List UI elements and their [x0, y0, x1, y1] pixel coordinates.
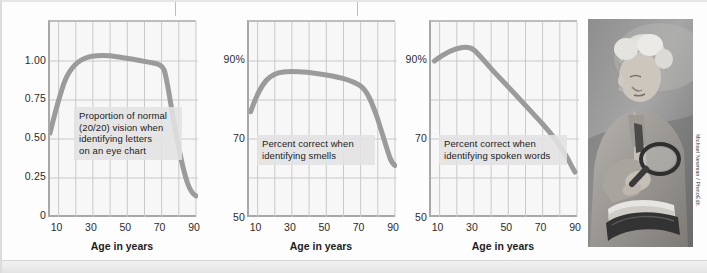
x-tick-label: 30: [85, 221, 97, 233]
chart-annotation-smell: Percent correct when identifying smells: [257, 135, 375, 165]
x-tick-label: 10: [250, 221, 262, 233]
grid-vertical: [258, 22, 395, 217]
chart-svg-smell: [249, 22, 397, 219]
x-tick-label: 50: [318, 221, 330, 233]
figure-page: 1.00 0.75 0.50 0.25 0: [0, 0, 707, 273]
chart-panel-hearing: 90% 70 50: [389, 2, 571, 273]
y-tick-label: 90%: [223, 53, 245, 65]
plot-area-hearing: Percent correct when identifying spoken …: [429, 20, 577, 217]
y-tick-label: 50: [415, 211, 427, 223]
photo-elderly-woman-reading: [588, 19, 693, 247]
chart-annotation-vision: Proportion of normal (20/20) vision when…: [74, 107, 182, 160]
y-tick-label: 1.00: [25, 54, 46, 66]
y-tick-label: 0.50: [25, 131, 46, 143]
x-tick-label: 70: [353, 221, 365, 233]
plot-area-vision: Proportion of normal (20/20) vision when…: [48, 20, 196, 217]
x-tick-label: 10: [51, 221, 63, 233]
y-axis-labels-vision: 1.00 0.75 0.50 0.25 0: [10, 2, 46, 273]
y-axis-labels-smell: 90% 70 50: [209, 2, 245, 273]
x-tick-label: 10: [432, 221, 444, 233]
x-axis-title-hearing: Age in years: [429, 240, 577, 252]
x-tick-label: 90: [188, 221, 200, 233]
page-bottom-band: [2, 260, 707, 273]
plot-area-smell: Percent correct when identifying smells: [247, 20, 395, 217]
y-axis-labels-hearing: 90% 70 50: [391, 2, 427, 273]
x-tick-label: 30: [284, 221, 296, 233]
y-tick-label: 70: [415, 132, 427, 144]
x-tick-label: 70: [535, 221, 547, 233]
x-axis-title-vision: Age in years: [48, 240, 196, 252]
y-tick-label: 90%: [405, 53, 427, 65]
y-tick-label: 0.75: [25, 92, 46, 104]
grid-vertical: [440, 22, 577, 217]
chart-annotation-hearing: Percent correct when identifying spoken …: [439, 135, 567, 165]
x-tick-label: 50: [500, 221, 512, 233]
y-tick-label: 0: [40, 209, 46, 221]
x-tick-label: 70: [154, 221, 166, 233]
x-tick-label: 30: [466, 221, 478, 233]
x-tick-label: 90: [569, 221, 581, 233]
y-tick-label: 0.25: [25, 170, 46, 182]
chart-panel-smell: 90% 70 50: [207, 2, 389, 273]
photo-credit: Michael Newman / PhotoEdit: [695, 134, 701, 206]
y-tick-label: 50: [233, 211, 245, 223]
x-tick-label: 50: [119, 221, 131, 233]
chart-svg-hearing: [431, 22, 579, 219]
chart-panel-vision: 1.00 0.75 0.50 0.25 0: [2, 2, 207, 273]
y-tick-label: 70: [233, 132, 245, 144]
photo-illustration: [588, 19, 693, 247]
x-axis-title-smell: Age in years: [247, 240, 395, 252]
